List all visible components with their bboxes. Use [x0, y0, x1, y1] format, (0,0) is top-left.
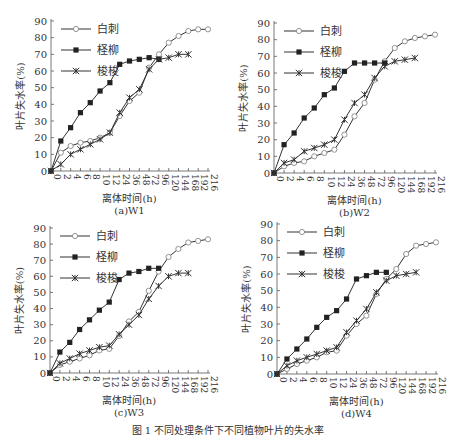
x-tick-label: 216: [437, 377, 447, 394]
asterisk-marker-icon: [77, 146, 83, 152]
open-circle-marker-icon: [402, 39, 407, 44]
filled-square-marker-icon: [58, 138, 63, 143]
filled-square-marker-icon: [146, 266, 151, 271]
x-axis-title: 离体时间(h): [327, 194, 381, 206]
legend-label: 梭梭: [97, 64, 119, 78]
asterisk-marker-icon: [294, 357, 300, 363]
y-tick-label: 10: [257, 151, 270, 162]
filled-square-marker-icon: [136, 269, 141, 274]
x-tick-label: 24: [346, 176, 356, 188]
x-tick-label: 8: [91, 376, 101, 382]
filled-square-marker-icon: [304, 336, 309, 341]
x-tick-label: 36: [131, 174, 141, 186]
x-tick-label: 120: [397, 377, 407, 394]
x-tick-label: 72: [378, 377, 388, 388]
series-line: [277, 272, 386, 374]
x-tick-label: 2: [285, 176, 295, 182]
x-tick-label: 144: [406, 176, 416, 193]
y-tick-label: 50: [257, 84, 270, 95]
filled-square-marker-icon: [281, 142, 286, 147]
filled-square-marker-icon: [78, 110, 83, 115]
y-tick-label: 60: [260, 269, 273, 280]
legend-label: 梭梭: [320, 66, 342, 80]
x-tick-label: 216: [209, 376, 219, 393]
filled-square-marker-icon: [332, 85, 337, 90]
filled-square-marker-icon: [72, 254, 77, 259]
open-circle-marker-icon: [312, 154, 317, 159]
open-circle-marker-icon: [414, 243, 419, 248]
asterisk-marker-icon: [331, 136, 337, 142]
filled-square-marker-icon: [67, 340, 72, 345]
x-tick-label: 120: [396, 176, 406, 193]
y-tick-label: 40: [260, 302, 273, 313]
filled-square-marker-icon: [68, 125, 73, 130]
asterisk-marker-icon: [314, 351, 320, 357]
x-tick-label: 4: [298, 377, 308, 383]
y-tick-label: 60: [257, 68, 270, 79]
legend-label: 白刺: [97, 22, 119, 36]
filled-square-marker-icon: [374, 270, 379, 275]
open-circle-marker-icon: [166, 40, 171, 45]
x-tick-label: 10: [326, 176, 336, 188]
x-tick-label: 24: [348, 377, 358, 389]
x-tick-label: 0: [52, 174, 62, 180]
filled-square-marker-icon: [97, 308, 102, 313]
open-circle-marker-icon: [342, 132, 347, 137]
open-circle-marker-icon: [394, 266, 399, 271]
open-circle-marker-icon: [186, 28, 191, 33]
x-tick-label: 4: [72, 174, 82, 180]
y-tick-label: 30: [34, 116, 47, 127]
open-circle-marker-icon: [186, 240, 191, 245]
asterisk-marker-icon: [86, 347, 92, 353]
y-tick-label: 50: [34, 82, 47, 93]
y-tick-label: 90: [257, 18, 270, 29]
asterisk-marker-icon: [136, 86, 142, 92]
legend-label: 白刺: [96, 229, 118, 243]
y-axis-title: 叶片失水率(%): [14, 62, 26, 129]
filled-square-marker-icon: [107, 80, 112, 85]
x-tick-label: 2: [61, 376, 71, 382]
x-tick-label: 10: [101, 174, 111, 186]
x-tick-label: 12: [336, 176, 346, 187]
open-circle-marker-icon: [392, 45, 397, 50]
y-axis-title: 叶片失水率(%): [237, 64, 249, 131]
open-circle-marker-icon: [412, 35, 417, 40]
open-circle-marker-icon: [77, 356, 82, 361]
asterisk-marker-icon: [341, 116, 347, 122]
legend-label: 白刺: [323, 225, 345, 239]
filled-square-marker-icon: [344, 296, 349, 301]
x-tick-label: 168: [416, 176, 426, 193]
x-tick-label: 12: [111, 174, 121, 185]
x-tick-label: 144: [407, 377, 417, 394]
legend-label: 梭梭: [96, 271, 118, 285]
filled-square-marker-icon: [322, 92, 327, 97]
x-tick-label: 48: [141, 174, 151, 186]
filled-square-marker-icon: [372, 60, 377, 65]
x-tick-label: 72: [150, 376, 160, 387]
filled-square-marker-icon: [88, 100, 93, 105]
filled-square-marker-icon: [147, 55, 152, 60]
legend-label: 柽柳: [320, 45, 342, 59]
open-circle-marker-icon: [362, 100, 367, 105]
series-asterisk: [47, 270, 192, 376]
filled-square-marker-icon: [107, 300, 112, 305]
x-tick-label: 36: [356, 176, 366, 188]
open-circle-marker-icon: [433, 240, 438, 245]
filled-square-marker-icon: [73, 47, 78, 52]
x-tick-label: 192: [426, 176, 436, 193]
filled-square-marker-icon: [302, 115, 307, 120]
filled-square-marker-icon: [77, 327, 82, 332]
chart-panel-4: 0102030405060708090024681012243648729612…: [240, 219, 447, 420]
asterisk-marker-icon: [321, 141, 327, 147]
x-tick-label: 96: [388, 377, 398, 389]
asterisk-marker-icon: [311, 145, 317, 151]
open-circle-marker-icon: [156, 52, 161, 57]
legend-label: 柽柳: [97, 43, 119, 57]
y-tick-label: 20: [257, 134, 270, 145]
x-tick-label: 8: [318, 377, 328, 383]
asterisk-marker-icon: [361, 91, 367, 97]
x-axis-title: 离体时间(h): [329, 395, 383, 407]
x-tick-label: 72: [150, 174, 160, 185]
x-tick-label: 36: [130, 376, 140, 388]
open-circle-marker-icon: [196, 238, 201, 243]
